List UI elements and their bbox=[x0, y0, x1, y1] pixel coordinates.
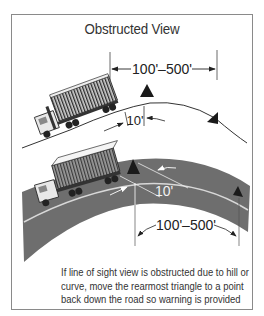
caption-line: curve, move the rearmost triangle to a p… bbox=[61, 280, 236, 294]
bottom-distance-label: 100'–500' bbox=[156, 217, 216, 233]
warning-triangle-icon bbox=[140, 84, 154, 97]
top-offset-label: 10' bbox=[127, 113, 144, 128]
caption-line: If line of sight view is obstructed due … bbox=[61, 266, 236, 280]
top-distance-dimension: 100'–500' bbox=[110, 50, 217, 80]
bottom-scene-curve: 10' 100'–500' bbox=[22, 141, 250, 262]
warning-triangle-icon bbox=[207, 112, 218, 124]
top-distance-label: 100'–500' bbox=[132, 61, 192, 77]
caption-line: back down the road so warning is provide… bbox=[61, 293, 236, 307]
top-scene-hill: 100'–500' 10' bbox=[22, 50, 247, 148]
caption: If line of sight view is obstructed due … bbox=[61, 266, 236, 307]
bottom-offset-label: 10' bbox=[155, 183, 173, 199]
